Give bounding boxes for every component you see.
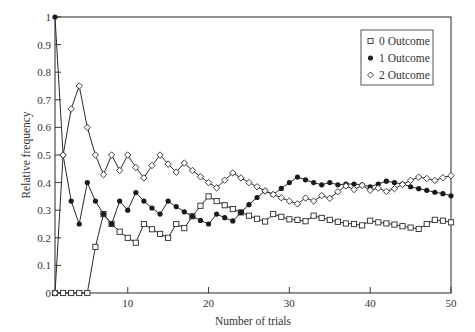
- open-square-marker: [416, 226, 421, 231]
- open-diamond-marker: [383, 188, 389, 194]
- legend-label: 2 Outcome: [379, 69, 430, 81]
- open-square-marker: [149, 227, 154, 232]
- y-tick-label: 0: [46, 287, 52, 299]
- open-diamond-marker: [359, 182, 365, 188]
- legend-label: 1 Outcome: [379, 52, 430, 64]
- open-diamond-marker: [116, 167, 122, 173]
- open-square-marker: [279, 214, 284, 219]
- open-diamond-marker: [424, 175, 430, 181]
- open-square-marker: [93, 244, 98, 249]
- filled-circle-marker: [246, 202, 251, 207]
- x-axis-label: Number of trials: [215, 315, 292, 327]
- open-diamond-marker: [448, 173, 454, 179]
- filled-circle-marker: [93, 198, 98, 203]
- x-tick-label: 20: [203, 297, 215, 309]
- open-square-marker: [360, 223, 365, 228]
- filled-circle-marker: [166, 198, 171, 203]
- y-tick-label: 0.2: [37, 232, 51, 244]
- open-square-marker: [157, 231, 162, 236]
- y-tick-label: 0.3: [37, 204, 51, 216]
- open-square-marker: [295, 217, 300, 222]
- open-diamond-marker: [399, 181, 405, 187]
- filled-circle-marker: [432, 190, 437, 195]
- filled-circle-marker: [190, 214, 195, 219]
- open-square-marker: [85, 290, 90, 295]
- open-square-marker: [351, 221, 356, 226]
- filled-circle-marker: [133, 190, 138, 195]
- filled-circle-marker: [384, 179, 389, 184]
- open-diamond-marker: [294, 201, 300, 207]
- open-diamond-marker: [76, 83, 82, 89]
- open-square-marker: [400, 224, 405, 229]
- y-tick-label: 0.6: [37, 121, 51, 133]
- filled-circle-marker: [230, 218, 235, 223]
- open-square-marker: [60, 290, 65, 295]
- filled-circle-marker: [69, 198, 74, 203]
- open-diamond-marker: [375, 185, 381, 191]
- filled-circle-marker: [85, 180, 90, 185]
- filled-circle-marker: [77, 221, 82, 226]
- open-square-marker: [271, 211, 276, 216]
- filled-circle-marker: [149, 205, 154, 210]
- open-square-marker: [384, 221, 389, 226]
- open-diamond-marker: [60, 152, 66, 158]
- filled-circle-marker: [279, 186, 284, 191]
- y-tick-label: 0.1: [37, 259, 51, 271]
- open-square-marker: [125, 235, 130, 240]
- open-square-marker: [440, 218, 445, 223]
- filled-circle-marker: [125, 208, 130, 213]
- y-tick-label: 0.9: [37, 39, 51, 51]
- open-diamond-marker: [432, 177, 438, 183]
- open-square-marker: [230, 206, 235, 211]
- y-tick-label: 0.8: [37, 66, 51, 78]
- y-tick-label: 0.7: [37, 94, 51, 106]
- open-diamond-marker: [318, 192, 324, 198]
- filled-circle-marker: [182, 209, 187, 214]
- open-square-marker: [408, 225, 413, 230]
- open-diamond-marker: [440, 174, 446, 180]
- x-tick-label: 50: [446, 297, 458, 309]
- filled-circle-icon: [368, 55, 373, 60]
- open-square-marker: [174, 221, 179, 226]
- open-diamond-marker: [100, 171, 106, 177]
- filled-circle-marker: [198, 218, 203, 223]
- open-diamond-marker: [108, 152, 114, 158]
- x-tick-label: 10: [122, 297, 134, 309]
- filled-circle-marker: [335, 182, 340, 187]
- filled-circle-marker: [440, 191, 445, 196]
- filled-circle-marker: [303, 177, 308, 182]
- open-diamond-marker: [286, 198, 292, 204]
- open-diamond-marker: [84, 124, 90, 130]
- open-square-marker: [182, 226, 187, 231]
- filled-circle-marker: [408, 184, 413, 189]
- legend-label: 0 Outcome: [379, 35, 430, 47]
- open-diamond-marker: [254, 184, 260, 190]
- open-square-marker: [327, 217, 332, 222]
- open-square-marker: [424, 221, 429, 226]
- open-square-marker: [303, 219, 308, 224]
- open-square-marker: [287, 217, 292, 222]
- open-square-marker: [117, 229, 122, 234]
- filled-circle-marker: [117, 198, 122, 203]
- open-diamond-marker: [68, 106, 74, 112]
- filled-circle-marker: [254, 195, 259, 200]
- y-tick-label: 0.5: [37, 149, 51, 161]
- open-square-marker: [133, 240, 138, 245]
- filled-circle-marker: [238, 210, 243, 215]
- open-square-icon: [368, 39, 373, 44]
- open-square-marker: [319, 215, 324, 220]
- filled-circle-marker: [327, 180, 332, 185]
- filled-circle-marker: [52, 14, 57, 19]
- filled-circle-marker: [448, 193, 453, 198]
- x-axis: 1020304050: [122, 287, 457, 309]
- open-square-marker: [246, 213, 251, 218]
- filled-circle-marker: [214, 211, 219, 216]
- filled-circle-marker: [222, 215, 227, 220]
- filled-circle-marker: [295, 174, 300, 179]
- open-diamond-marker: [310, 198, 316, 204]
- open-diamond-marker: [125, 152, 131, 158]
- filled-circle-marker: [109, 221, 114, 226]
- open-diamond-marker: [351, 186, 357, 192]
- open-square-marker: [254, 216, 259, 221]
- open-square-marker: [311, 213, 316, 218]
